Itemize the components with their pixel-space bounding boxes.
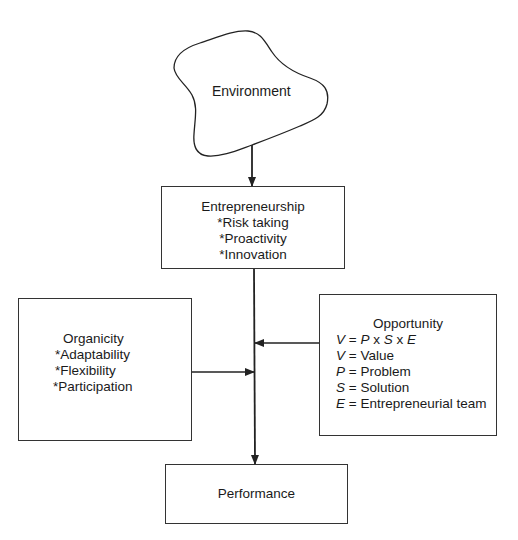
environment-label: Environment	[212, 83, 291, 99]
entrepreneurship-text: Entrepreneurship *Risk taking *Proactivi…	[161, 199, 345, 263]
organicity-item: *Flexibility	[55, 363, 133, 379]
organicity-title: Organicity	[55, 331, 133, 347]
arrow-entrepreneurship-to-performance	[254, 269, 255, 464]
entrepreneurship-item: *Innovation	[161, 247, 345, 263]
opportunity-definition: V = Value	[336, 348, 486, 364]
entrepreneurship-item: *Risk taking	[161, 215, 345, 231]
opportunity-definition: S = Solution	[336, 380, 486, 396]
organicity-text: Organicity *Adaptability *Flexibility *P…	[55, 331, 133, 395]
opportunity-definition: E = Entrepreneurial team	[336, 396, 486, 412]
entrepreneurship-item: *Proactivity	[161, 231, 345, 247]
opportunity-definition: P = Problem	[336, 364, 486, 380]
diagram-connectors	[0, 0, 518, 540]
entrepreneurship-title: Entrepreneurship	[161, 199, 345, 215]
performance-label: Performance	[165, 486, 348, 502]
organicity-item: *Adaptability	[55, 347, 133, 363]
opportunity-title: Opportunity	[319, 316, 497, 332]
opportunity-formulas: V = P x S x E V = Value P = Problem S = …	[336, 332, 486, 412]
organicity-item: *Participation	[53, 379, 133, 395]
opportunity-formula: V = P x S x E	[336, 332, 486, 348]
